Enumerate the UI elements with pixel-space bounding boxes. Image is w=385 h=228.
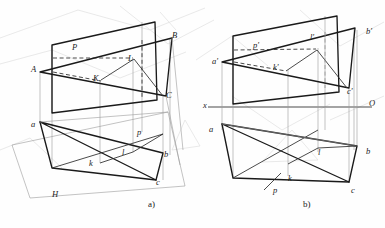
caption-b: b): [303, 200, 311, 209]
label-L: L: [128, 54, 133, 63]
label-l-horizontal: l: [122, 148, 124, 157]
background-artifacts: [0, 6, 384, 168]
label-k-horizontal: k: [89, 159, 93, 168]
label-b-monge: b: [366, 147, 370, 156]
triangle-abc-frontal: [222, 28, 355, 88]
label-B: B: [172, 31, 177, 40]
label-l-monge: l: [318, 148, 320, 157]
triangle-ABC: [40, 38, 172, 96]
label-H-plane: H: [52, 190, 58, 199]
label-p-prime: p': [253, 41, 259, 50]
triangle-abc-horizontal: [40, 122, 163, 180]
label-P: P: [72, 43, 77, 52]
label-A: A: [31, 65, 36, 74]
frontal-plane-p-prime: [233, 16, 339, 104]
label-a-horizontal: a: [31, 120, 35, 129]
cutting-plane-P: [52, 22, 157, 113]
label-a-monge: a: [209, 125, 213, 134]
label-p-monge: p: [273, 186, 277, 195]
label-b-prime: b': [366, 27, 372, 36]
label-a-prime: a': [212, 57, 218, 66]
recall-projector-lines: [222, 16, 357, 182]
label-k-monge: k: [288, 174, 292, 183]
technical-drawing-figure: .hv{fill:none;stroke:#1a1a1a;stroke-widt…: [0, 0, 385, 228]
edge-links-pictorial: [166, 38, 183, 165]
pictorial-view-group: [12, 22, 185, 198]
label-p-trace: p: [137, 128, 141, 137]
label-K: K: [93, 74, 99, 83]
label-c-monge: c: [351, 186, 355, 195]
label-k-prime: k': [273, 63, 279, 72]
label-x-axis: x: [203, 101, 207, 110]
label-b-horizontal: b: [164, 150, 168, 159]
label-l-prime: l': [310, 33, 314, 42]
caption-a: a): [148, 200, 155, 209]
label-C: C: [166, 91, 172, 100]
label-c-prime: c': [347, 87, 353, 96]
label-O-origin: O: [369, 99, 375, 108]
horizontal-trace-p: [40, 112, 168, 168]
label-c-horizontal: c: [156, 178, 160, 187]
